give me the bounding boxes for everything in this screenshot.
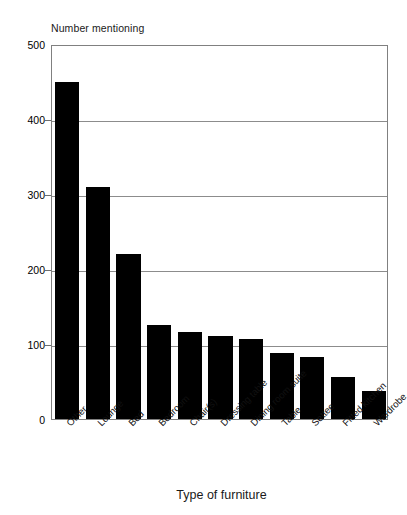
bar (55, 82, 79, 420)
y-axis-tick-labels: 0100200300400500 (0, 45, 45, 420)
bar-chart-figure: Number mentioning 0100200300400500 Other… (0, 0, 407, 515)
y-tick-label: 500 (3, 40, 45, 50)
y-axis-title: Number mentioning (51, 22, 144, 34)
x-axis-tick-labels: OtherLoungeBedBedroomChair(s)Dressing ta… (51, 421, 388, 485)
bar (86, 187, 110, 420)
bar-series (52, 46, 387, 419)
y-tick-label: 200 (3, 265, 45, 275)
plot-area (51, 45, 388, 420)
bar (116, 254, 140, 419)
y-tick-label: 100 (3, 340, 45, 350)
bar (147, 325, 171, 419)
y-tick-label: 300 (3, 190, 45, 200)
y-tick-label: 0 (3, 415, 45, 425)
x-axis-title: Type of furniture (0, 488, 407, 502)
y-tick-label: 400 (3, 115, 45, 125)
x-axis-title-text: Type of furniture (140, 488, 266, 502)
